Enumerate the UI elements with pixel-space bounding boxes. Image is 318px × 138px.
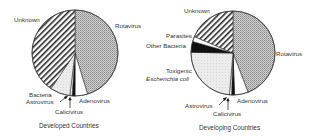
label-adenovirus-developed: Adenovirus	[79, 97, 110, 104]
label-toxigenic-line1-developing: Toxigenic	[166, 67, 192, 74]
label-calicivirus-developed: Calicivirus	[55, 108, 83, 115]
label-other-bacteria-developing: Other Bacteria	[146, 42, 186, 49]
label-astrovirus-developing: Astrovirus	[185, 102, 213, 109]
pie-developing	[191, 11, 275, 95]
pie-charts-figure: Unknown Rotavirus Bacteria Astrovirus Ca…	[0, 0, 318, 138]
label-calicivirus-developing: Calicivirus	[213, 110, 241, 117]
label-unknown-developing: Unknown	[184, 7, 210, 14]
label-unknown-developed: Unknown	[14, 16, 40, 23]
slice-toxigenic-e-coli	[191, 52, 233, 95]
arrow-astrovirus-developed	[60, 96, 68, 102]
label-rotavirus-developed: Rotavirus	[115, 22, 141, 29]
label-bacteria-developed: Bacteria	[29, 91, 52, 98]
caption-developing: Developing Countries	[199, 124, 260, 132]
arrow-astrovirus-developing	[219, 98, 227, 106]
label-toxigenic-line2-developing: Eschenchia coli	[146, 75, 190, 82]
arrow-calicivirus-developing	[227, 99, 229, 111]
pie-developed	[32, 10, 118, 96]
label-parasites-developing: Parasites	[166, 32, 192, 39]
arrow-calicivirus-developed	[69, 98, 71, 109]
caption-developed: Developed Countries	[39, 122, 99, 130]
label-adenovirus-developing: Adenovirus	[237, 97, 268, 104]
label-astrovirus-developed: Astrovirus	[26, 98, 54, 105]
label-rotavirus-developing: Rotavirus	[276, 50, 302, 57]
